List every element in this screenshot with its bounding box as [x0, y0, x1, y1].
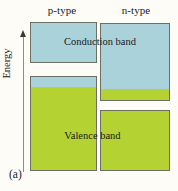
energy-axis-label: Energy — [1, 34, 12, 94]
n-type-conduction-band-box — [100, 23, 170, 101]
panel-label: (a) — [9, 168, 22, 180]
n-type-conduction-band-floor — [101, 89, 169, 100]
energy-axis — [18, 30, 30, 172]
band-diagram-figure: p-type n-type Energy Conduction band Val… — [0, 0, 178, 191]
column-header-p-type: p-type — [28, 4, 96, 16]
n-type-valence-band-box — [100, 110, 170, 171]
energy-axis-line — [23, 36, 24, 172]
p-type-valence-band-box — [30, 76, 97, 171]
column-header-n-type: n-type — [101, 4, 171, 16]
p-type-conduction-band-box — [30, 22, 97, 63]
up-arrow-icon — [20, 30, 26, 37]
p-type-valence-band-cap — [31, 77, 96, 87]
